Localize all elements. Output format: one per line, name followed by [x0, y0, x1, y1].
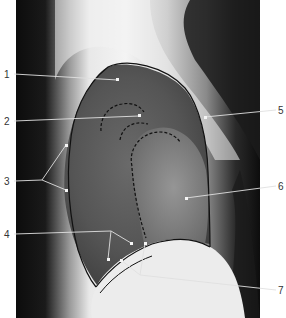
left-margin: [0, 0, 16, 318]
label-2: 2: [4, 116, 10, 127]
xray-figure: 1 2 3 4 5 6 7: [0, 0, 286, 318]
xray-diagram: 1 2 3 4 5 6 7: [0, 0, 286, 318]
label-4: 4: [4, 229, 10, 240]
label-6: 6: [278, 181, 284, 192]
label-5: 5: [278, 105, 284, 116]
label-7: 7: [278, 285, 284, 296]
label-1: 1: [4, 69, 10, 80]
right-margin: [260, 0, 286, 318]
label-3: 3: [4, 176, 10, 187]
